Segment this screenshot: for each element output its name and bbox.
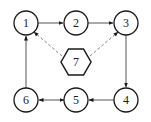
node-label: 4 bbox=[123, 93, 129, 107]
node-label: 7 bbox=[73, 55, 79, 69]
node-2: 2 bbox=[64, 11, 88, 35]
node-5: 5 bbox=[64, 88, 88, 112]
node-label: 2 bbox=[73, 16, 79, 30]
node-label: 1 bbox=[23, 16, 29, 30]
node-3: 3 bbox=[114, 11, 138, 35]
node-6: 6 bbox=[14, 88, 38, 112]
node-4: 4 bbox=[114, 88, 138, 112]
graph-diagram: 1 2 3 4 5 6 7 bbox=[0, 0, 151, 122]
node-label: 5 bbox=[73, 93, 79, 107]
node-label: 6 bbox=[23, 93, 29, 107]
edge-7-to-3 bbox=[90, 32, 118, 56]
edge-7-to-1 bbox=[34, 32, 62, 56]
node-label: 3 bbox=[123, 16, 129, 30]
node-7-hexagon: 7 bbox=[61, 49, 91, 75]
node-1: 1 bbox=[14, 11, 38, 35]
